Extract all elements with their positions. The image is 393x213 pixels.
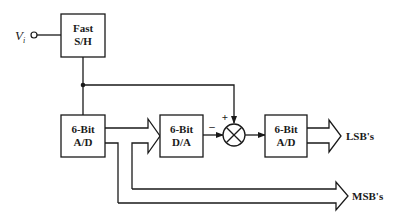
coarse-adc-label-2: A/D	[74, 136, 93, 148]
diagram-canvas: Vi Fast S/H 6-Bit A/D MSB's 6-Bit D/A – …	[0, 0, 393, 213]
coarse-adc-label-1: 6-Bit	[71, 123, 95, 135]
input-terminal-icon	[31, 32, 37, 38]
sh-to-summer-wire	[83, 85, 234, 123]
adc1-to-dac-bus	[105, 119, 160, 189]
dac-block: 6-Bit D/A	[160, 115, 203, 157]
plus-sign: +	[222, 111, 228, 123]
lsb-output-bus	[307, 120, 341, 152]
fine-adc-label-2: A/D	[277, 136, 296, 148]
fine-adc-block: 6-Bit A/D	[265, 115, 307, 157]
input-terminal: Vi	[15, 28, 61, 45]
minus-sign: –	[208, 120, 215, 132]
dac-label-2: D/A	[172, 136, 191, 148]
coarse-adc-block: 6-Bit A/D	[61, 115, 105, 157]
msb-output-bus	[118, 182, 348, 210]
msb-bus-outer	[105, 143, 118, 203]
dac-label-1: 6-Bit	[170, 123, 194, 135]
input-label: Vi	[15, 28, 25, 45]
fine-adc-label-1: 6-Bit	[274, 123, 298, 135]
summing-junction-icon	[223, 124, 245, 146]
msb-label: MSB's	[352, 190, 384, 202]
sample-hold-block: Fast S/H	[61, 14, 105, 57]
lsb-label: LSB's	[346, 130, 375, 142]
sample-hold-label-2: S/H	[74, 35, 92, 47]
sample-hold-label-1: Fast	[73, 22, 94, 34]
